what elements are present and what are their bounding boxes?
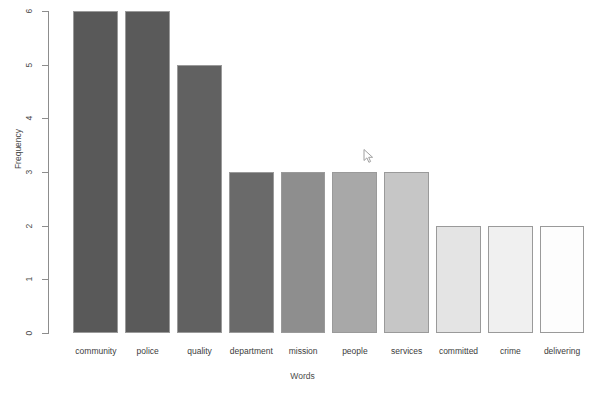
y-axis-tick (42, 226, 48, 227)
bar[interactable] (540, 226, 585, 333)
bar[interactable] (332, 172, 377, 333)
y-axis-tick (42, 65, 48, 66)
bar[interactable] (281, 172, 326, 333)
y-axis-tick-label: 2 (24, 219, 34, 233)
bar[interactable] (384, 172, 429, 333)
y-axis-title: Frequency (13, 99, 23, 199)
bar[interactable] (488, 226, 533, 333)
bar[interactable] (436, 226, 481, 333)
y-axis-tick-label: 6 (24, 4, 34, 18)
bar[interactable] (73, 11, 118, 333)
y-axis-tick (42, 333, 48, 334)
y-axis-tick-label: 4 (24, 111, 34, 125)
bar[interactable] (229, 172, 274, 333)
bar[interactable] (125, 11, 170, 333)
y-axis-tick-label: 5 (24, 58, 34, 72)
y-axis-tick-label: 1 (24, 272, 34, 286)
x-axis-category-label: delivering (522, 346, 602, 356)
y-axis-tick-label: 0 (24, 326, 34, 340)
clipped-plot-title: sentiment of words (424, 0, 584, 3)
bar-chart-plot: sentiment of words 0123456 Frequency com… (0, 0, 605, 394)
y-axis-tick (42, 172, 48, 173)
x-axis-title: Words (0, 371, 605, 381)
y-axis-line (48, 11, 49, 334)
y-axis-tick (42, 118, 48, 119)
bar[interactable] (177, 65, 222, 333)
y-axis-tick-label: 3 (24, 165, 34, 179)
y-axis-tick (42, 279, 48, 280)
y-axis-tick (42, 11, 48, 12)
mouse-pointer-icon (363, 149, 374, 163)
